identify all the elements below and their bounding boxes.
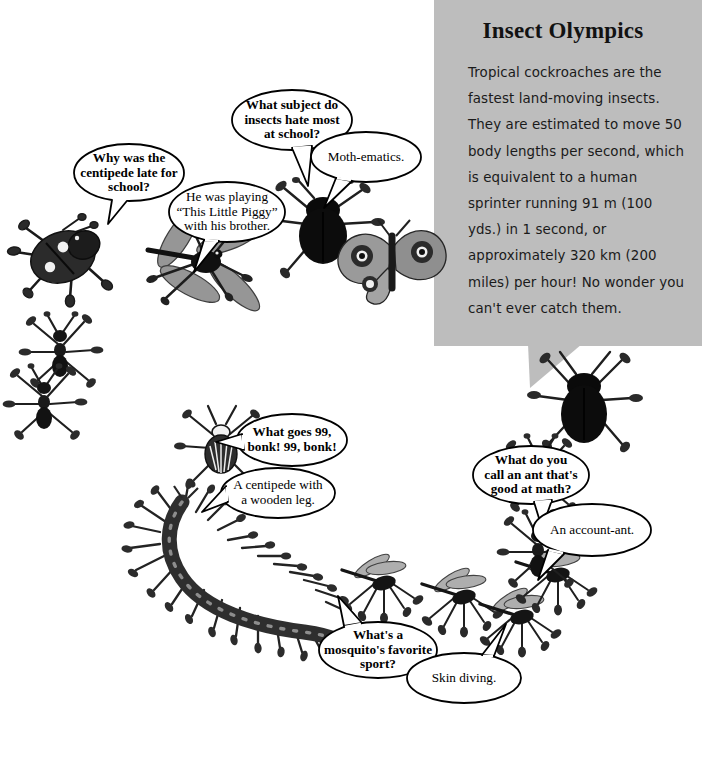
moth-icon — [330, 208, 450, 308]
insect-olympics-panel: Insect Olympics Tropical cockroaches are… — [434, 0, 702, 346]
bubble-bonk-question: What goes 99, bonk! 99, bonk! — [234, 412, 350, 468]
panel-body-text: Tropical cockroaches are the fastest lan… — [468, 60, 690, 322]
ant-icon — [2, 362, 86, 438]
comic-page: Insect Olympics Tropical cockroaches are… — [0, 0, 702, 760]
bubble-subject-hated-answer: Moth-ematics. — [308, 130, 424, 184]
bubble-mosquito-sport-answer: Skin diving. — [404, 652, 524, 704]
panel-title: Insect Olympics — [434, 18, 692, 44]
bubble-math-ant-question: What do you call an ant that's good at m… — [470, 444, 592, 506]
bubble-math-ant-answer: An account-ant. — [530, 502, 654, 558]
bubble-bonk-answer: A centipede with a wooden leg. — [218, 466, 338, 520]
